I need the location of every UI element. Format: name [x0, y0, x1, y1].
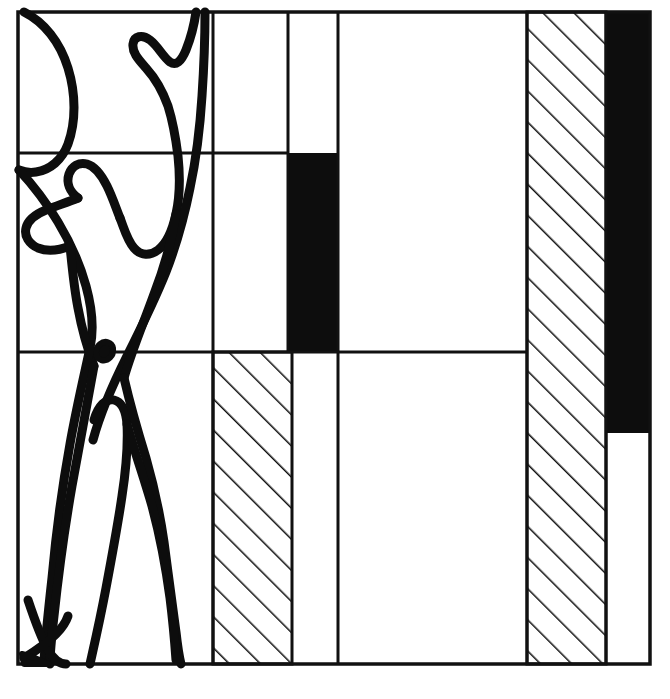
modulor-diagram-canvas [0, 0, 670, 699]
bar-hatched-full-right [527, 12, 606, 664]
bar-solid-upper-inner [288, 153, 338, 352]
bar-solid-right [606, 12, 650, 433]
diagram-root [0, 0, 670, 699]
bar-hatched-lower-inner [213, 352, 292, 664]
navel-dot [96, 342, 113, 360]
